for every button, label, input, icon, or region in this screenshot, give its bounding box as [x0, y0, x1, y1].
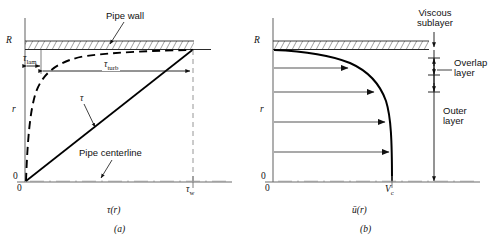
overlap-layer-label: Overlap layer — [454, 58, 487, 78]
pipe-centerline-label: Pipe centerline — [79, 148, 142, 158]
figure-container: R 0 0 r τw Pipe wall Pipe centerline τla… — [0, 0, 494, 242]
tau-lam-subscript: lam — [26, 58, 36, 65]
panel-b-ytick-0: 0 — [261, 172, 266, 182]
panel-a-ytick-R: R — [6, 36, 12, 46]
panel-b-xaxis-label: ū(r) — [352, 206, 367, 216]
panel-a-xtick-tau-w: τw — [186, 185, 194, 196]
pipe-wall-hatch — [25, 41, 194, 49]
panel-b-xtick-0: 0 — [265, 184, 270, 194]
pipe-centerline-leader — [101, 160, 112, 178]
tau-total-label: τ — [80, 94, 83, 104]
viscous-sublayer-line2: sublayer — [410, 18, 460, 28]
viscous-sublayer-label: Viscous sublayer — [410, 8, 460, 28]
panel-a-ytick-0: 0 — [13, 172, 18, 182]
panel-b-xtick-vc: Vc — [385, 185, 394, 196]
overlap-layer-line2: layer — [454, 68, 487, 78]
outer-layer-line2: layer — [443, 116, 467, 126]
velocity-profile-curve — [274, 50, 392, 182]
figure-svg — [0, 0, 494, 242]
tau-lam-label: τlam — [23, 54, 37, 65]
tau-leader — [84, 104, 95, 127]
panel-b-ytick-R: R — [254, 36, 260, 46]
panel-b-yaxis-label: r — [260, 105, 264, 115]
panel-a-yaxis-label: r — [12, 105, 16, 115]
panel-a-xtick-0: 0 — [17, 184, 22, 194]
panel-a-xaxis-label: τ(r) — [107, 206, 120, 216]
tau-turb-subscript: turb — [107, 64, 118, 71]
tau-turb-label: τturb — [102, 60, 120, 71]
tau-w-subscript: w — [189, 189, 194, 196]
vc-subscript: c — [391, 189, 394, 196]
outer-layer-label: Outer layer — [443, 106, 467, 126]
pipe-wall-label: Pipe wall — [106, 11, 144, 21]
panel-a — [17, 18, 232, 188]
viscous-sublayer-hatch — [273, 41, 429, 49]
panel-b-caption: (b) — [360, 225, 371, 235]
panel-b — [265, 18, 480, 188]
panel-a-caption: (a) — [114, 225, 125, 235]
